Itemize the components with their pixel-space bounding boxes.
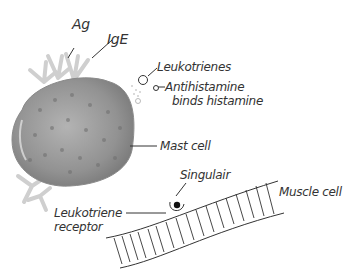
antihistamine-symbol — [154, 86, 159, 91]
label-mast-cell: Mast cell — [160, 140, 210, 153]
label-ige: IgE — [107, 33, 128, 46]
label-antihistamine: Antihistamine — [165, 81, 244, 94]
leukotriene-symbol — [139, 76, 148, 85]
muscle-cell-illustration — [106, 181, 284, 268]
label-binds-histamine: binds histamine — [172, 95, 263, 108]
label-singulair: Singulair — [180, 169, 230, 182]
singulair-leader — [176, 183, 186, 196]
label-leukotrienes: Leukotrienes — [157, 61, 231, 74]
label-leukotriene: Leukotriene — [54, 207, 122, 220]
histamine-dots — [131, 85, 141, 97]
diagram-canvas — [0, 0, 351, 275]
label-receptor: receptor — [54, 221, 103, 234]
mast-cell-illustration — [12, 78, 134, 186]
singulair-drug-icon — [174, 202, 180, 208]
leukotrienes-leader — [148, 68, 157, 76]
label-ag: Ag — [72, 18, 90, 31]
ag-leader — [68, 48, 74, 58]
label-muscle-cell: Muscle cell — [279, 186, 342, 199]
